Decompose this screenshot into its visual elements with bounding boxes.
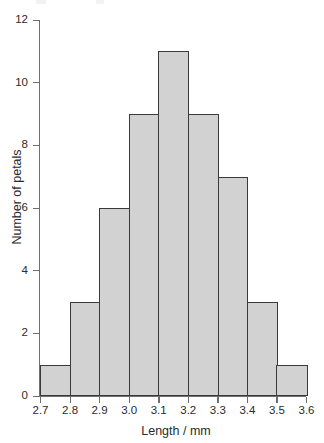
x-axis-tick-label: 3.6 [299, 404, 315, 416]
y-axis-tick [33, 396, 39, 397]
histogram-bar [217, 177, 248, 396]
x-axis-tick [99, 397, 100, 403]
y-axis-tick-label: 0 [22, 390, 28, 402]
x-axis-tick [188, 397, 189, 403]
plot-area [40, 20, 306, 396]
x-axis-tick-label: 3.5 [269, 404, 285, 416]
histogram-bar [70, 302, 101, 396]
y-axis-tick [33, 333, 39, 334]
x-axis-title: Length / mm [0, 424, 324, 438]
x-axis-tick-label: 3.0 [121, 404, 137, 416]
y-axis-tick [33, 145, 39, 146]
x-axis-tick [158, 397, 159, 403]
x-axis-tick [217, 397, 218, 403]
histogram-bar [247, 302, 278, 396]
histogram-chart: 024681012 2.72.82.93.03.13.23.33.43.53.6… [0, 0, 324, 443]
y-axis-tick [33, 208, 39, 209]
histogram-bar [158, 51, 189, 396]
x-axis-tick-label: 2.8 [62, 404, 78, 416]
histogram-bar [276, 365, 307, 396]
y-axis-tick-label: 2 [22, 327, 28, 339]
y-axis-tick [33, 270, 39, 271]
top-clip-artifact-a [36, 0, 46, 4]
x-axis-tick-label: 3.4 [239, 404, 255, 416]
x-axis-tick [70, 397, 71, 403]
y-axis-tick [33, 20, 39, 21]
x-axis-tick-label: 3.1 [151, 404, 167, 416]
x-axis-tick [306, 397, 307, 403]
y-axis-title: Number of petals [10, 107, 24, 287]
x-axis-tick-label: 3.3 [210, 404, 226, 416]
histogram-bar [40, 365, 71, 396]
y-axis-tick-label: 10 [15, 77, 28, 89]
x-axis-tick [276, 397, 277, 403]
histogram-bar [129, 114, 160, 396]
y-axis-tick [33, 82, 39, 83]
top-clip-artifact-b [96, 0, 104, 4]
x-axis-tick-label: 2.9 [92, 404, 108, 416]
x-axis-tick-label: 3.2 [180, 404, 196, 416]
x-axis-tick [129, 397, 130, 403]
histogram-bar [188, 114, 219, 396]
x-axis-tick-label: 2.7 [33, 404, 49, 416]
histogram-bar [99, 208, 130, 396]
x-axis-tick [40, 397, 41, 403]
y-axis-tick-label: 12 [15, 14, 28, 26]
x-axis-tick [247, 397, 248, 403]
